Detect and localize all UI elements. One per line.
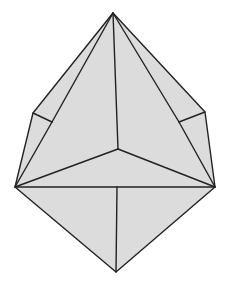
polyhedron-figure (0, 0, 230, 286)
polyhedron-drawing (0, 0, 230, 286)
